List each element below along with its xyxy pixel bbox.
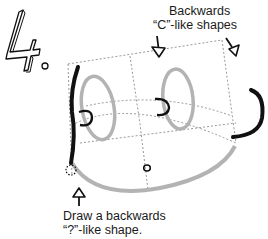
step-number-dot <box>42 63 48 69</box>
left-eye-oval <box>77 74 120 143</box>
step-number <box>6 10 48 72</box>
guide-box-top <box>68 40 222 64</box>
arrow-down-right-icon <box>226 38 239 56</box>
face-bottom-curve <box>72 146 235 191</box>
arrow-down-icon <box>152 36 165 57</box>
annotation-backwards-question-shape: Draw a backwards “?”-like shape. <box>63 209 166 237</box>
guide-curve-upper <box>86 100 232 116</box>
right-eye-oval <box>160 68 196 131</box>
annotation-bottom-line2: “?”-like shape. <box>63 223 166 237</box>
guide-box-right <box>222 40 236 143</box>
annotation-bottom-line1: Draw a backwards <box>63 209 166 223</box>
nose-small-circle <box>144 165 151 171</box>
right-ear-stroke <box>233 90 263 137</box>
annotation-backwards-c-shapes: Backwards “C”-like shapes <box>153 4 237 32</box>
drawing-canvas <box>0 0 268 239</box>
guide-lines <box>68 40 236 190</box>
annotation-top-line1: Backwards <box>153 4 237 18</box>
arrow-up-icon <box>73 188 85 206</box>
annotation-top-line2: “C”-like shapes <box>153 18 237 32</box>
backwards-question-stroke <box>71 67 78 163</box>
